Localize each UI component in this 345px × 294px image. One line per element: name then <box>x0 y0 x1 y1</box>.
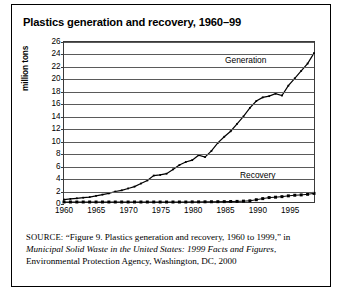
data-point-marker <box>89 196 91 198</box>
data-point-marker <box>127 188 129 190</box>
y-axis-tick-mark <box>61 154 64 155</box>
data-point-marker <box>108 192 110 194</box>
y-axis-tick-label: 12 <box>51 125 60 133</box>
y-axis-tick-label: 2 <box>56 187 61 195</box>
y-axis-tick-mark <box>61 192 64 193</box>
data-point-marker <box>287 194 290 197</box>
data-point-marker <box>280 195 283 198</box>
source-label: SOURCE: <box>26 232 63 242</box>
data-point-marker <box>153 175 155 177</box>
y-axis-tick-label: 6 <box>56 163 61 171</box>
data-point-marker <box>120 201 123 204</box>
data-point-marker <box>133 201 136 204</box>
data-point-marker <box>268 196 271 199</box>
figure-title: Plastics generation and recovery, 1960–9… <box>23 16 241 28</box>
data-point-marker <box>172 168 174 170</box>
data-point-marker <box>146 201 149 204</box>
data-point-marker <box>210 200 213 203</box>
gridline <box>64 179 314 180</box>
x-axis-tick-label: 1980 <box>184 206 202 215</box>
data-point-marker <box>82 197 84 199</box>
y-axis-label: million tons <box>20 46 30 91</box>
data-point-marker <box>281 95 283 97</box>
data-point-marker <box>300 193 303 196</box>
x-axis-tick-label: 1960 <box>55 206 73 215</box>
data-point-marker <box>255 100 257 102</box>
series-line-generation <box>64 53 314 199</box>
data-point-marker <box>211 150 213 152</box>
data-point-marker <box>159 201 162 204</box>
y-axis-tick-mark <box>61 129 64 130</box>
data-point-marker <box>229 200 232 203</box>
data-point-marker <box>159 174 161 176</box>
data-point-marker <box>191 200 194 203</box>
x-axis-tick-label: 1995 <box>281 206 299 215</box>
data-point-marker <box>127 201 130 204</box>
y-axis-tick-mark <box>61 204 64 205</box>
gridline <box>64 167 314 168</box>
source-publication: Municipal Solid Waste in the United Stat… <box>26 244 274 254</box>
data-point-marker <box>70 198 72 200</box>
y-axis-tick-mark <box>61 117 64 118</box>
data-point-marker <box>197 200 200 203</box>
data-point-marker <box>101 201 104 204</box>
data-point-marker <box>140 183 142 185</box>
gridline <box>64 67 314 68</box>
data-point-marker <box>134 186 136 188</box>
data-point-marker <box>204 156 206 158</box>
series-label-generation: Generation <box>224 55 267 65</box>
data-point-marker <box>63 199 65 201</box>
y-axis-tick-label: 4 <box>56 175 61 183</box>
source-note: SOURCE: “Figure 9. Plastics generation a… <box>26 231 322 268</box>
y-axis-tick-mark <box>61 54 64 55</box>
gridline <box>64 129 314 130</box>
x-axis-tick-label: 1970 <box>120 206 138 215</box>
data-point-marker <box>139 201 142 204</box>
data-point-marker <box>184 201 187 204</box>
y-axis-tick-mark <box>61 104 64 105</box>
y-axis-tick-mark <box>61 79 64 80</box>
data-point-marker <box>178 201 181 204</box>
data-point-marker <box>166 173 168 175</box>
data-point-marker <box>242 200 245 203</box>
data-point-marker <box>300 70 302 72</box>
data-point-marker <box>165 201 168 204</box>
y-axis-tick-label: 10 <box>51 138 60 146</box>
data-point-marker <box>275 93 277 95</box>
gridline <box>64 92 314 93</box>
data-point-marker <box>102 194 104 196</box>
source-quoted-title: “Figure 9. Plastics generation and recov… <box>66 232 281 242</box>
data-point-marker <box>204 200 207 203</box>
data-point-marker <box>249 107 251 109</box>
chart-area: million tons Generation Recovery 0246810… <box>23 35 319 215</box>
data-point-marker <box>95 195 97 197</box>
figure-container: Plastics generation and recovery, 1960–9… <box>11 4 331 287</box>
gridline <box>64 54 314 55</box>
y-axis-tick-label: 18 <box>51 88 60 96</box>
y-axis-tick-label: 20 <box>51 75 60 83</box>
y-axis-tick-mark <box>61 92 64 93</box>
data-point-marker <box>287 85 289 87</box>
y-axis-tick-mark <box>61 67 64 68</box>
data-point-marker <box>69 201 72 204</box>
source-connector: in <box>283 232 290 242</box>
data-point-marker <box>82 201 85 204</box>
x-axis-tick-label: 1990 <box>249 206 267 215</box>
gridline <box>64 79 314 80</box>
data-point-marker <box>76 197 78 199</box>
data-point-marker <box>114 201 117 204</box>
data-point-marker <box>306 193 309 196</box>
data-point-marker <box>152 201 155 204</box>
gridline <box>64 192 314 193</box>
data-point-marker <box>236 123 238 125</box>
gridline <box>64 142 314 143</box>
data-point-marker <box>274 196 277 199</box>
data-point-marker <box>171 201 174 204</box>
data-point-marker <box>248 199 251 202</box>
data-point-marker <box>88 201 91 204</box>
data-point-marker <box>75 201 78 204</box>
gridline <box>64 117 314 118</box>
x-axis-tick-label: 1965 <box>87 206 105 215</box>
y-axis-tick-label: 22 <box>51 63 60 71</box>
x-axis-tick-label: 1985 <box>216 206 234 215</box>
